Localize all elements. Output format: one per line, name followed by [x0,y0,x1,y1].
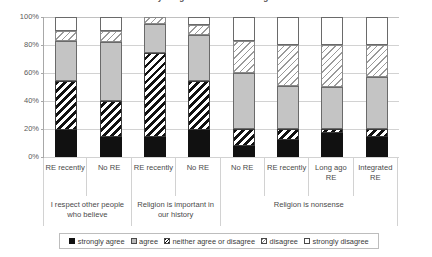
plot-area: 0%20%40%60%80%100% [43,17,399,158]
legend-item[interactable]: agree [131,237,158,246]
legend-item[interactable]: strongly disagree [304,237,369,246]
stacked-bar[interactable] [144,17,166,157]
bar-segment-dg[interactable] [144,17,166,24]
bar-segment-sa[interactable] [100,137,122,157]
bar-segment-dg[interactable] [55,31,77,41]
bar-segment-ag[interactable] [366,77,388,129]
category-axis: RE recentlyNo RERE recentlyNo RENo RERE … [43,158,398,196]
bar-segment-nt[interactable] [366,129,388,137]
bar-slot [222,17,266,157]
bar-segment-sa[interactable] [366,137,388,157]
y-axis-tick-label: 20% [24,125,39,133]
bar-segment-sa[interactable] [321,133,343,157]
legend-label: disagree [270,237,298,246]
chart-root: How far do you agree with the following … [0,0,432,257]
bar-segment-ag[interactable] [100,42,122,101]
group-label-cell: I respect other people who believe [43,196,132,226]
legend-swatch-icon [261,238,267,244]
stacked-bar[interactable] [188,17,210,157]
bar-slot [133,17,177,157]
bar-segment-nt[interactable] [277,129,299,140]
group-label: Religion is important in our history [132,200,220,220]
bar-segment-ag[interactable] [55,41,77,82]
category-label-cell: No RE [87,158,131,196]
bar-segment-nt[interactable] [100,101,122,137]
bar-slot [177,17,221,157]
category-label: No RE [176,163,219,173]
bar-segment-nt[interactable] [188,81,210,130]
chart-title: How far do you agree with the following … [0,0,432,2]
bar-segment-sa[interactable] [144,137,166,157]
category-label: No RE [87,163,130,173]
bar-segment-sd[interactable] [55,17,77,31]
bar-segment-sd[interactable] [100,17,122,31]
category-label-cell: No RE [176,158,220,196]
bar-series-container [44,17,399,157]
bar-segment-sd[interactable] [233,17,255,41]
category-label: RE recently [265,163,308,173]
category-label-cell: Integrated RE [354,158,398,196]
bar-segment-ag[interactable] [321,87,343,129]
bar-segment-sa[interactable] [55,130,77,157]
legend-item[interactable]: disagree [261,237,298,246]
bar-segment-sa[interactable] [233,146,255,157]
legend-swatch-icon [131,238,137,244]
legend-label: neither agree or disagree [173,237,256,246]
bar-slot [355,17,399,157]
stacked-bar[interactable] [100,17,122,157]
group-label: I respect other people who believe [44,200,131,220]
group-label-cell: Religion is nonsense [221,196,399,226]
bar-segment-dg[interactable] [366,45,388,77]
y-axis-tick-label: 80% [24,41,39,49]
bar-segment-sd[interactable] [277,17,299,45]
category-label-cell: RE recently [132,158,176,196]
bar-slot [88,17,132,157]
bar-segment-nt[interactable] [55,81,77,130]
bar-slot [310,17,354,157]
category-label: No RE [221,163,264,173]
stacked-bar[interactable] [277,17,299,157]
stacked-bar[interactable] [55,17,77,157]
stacked-bar[interactable] [366,17,388,157]
bar-segment-nt[interactable] [321,129,343,133]
stacked-bar[interactable] [233,17,255,157]
y-axis-tick-label: 100% [20,13,39,21]
stacked-bar[interactable] [321,17,343,157]
legend-swatch-icon [164,238,170,244]
bar-segment-sa[interactable] [277,140,299,157]
category-label: RE recently [132,163,175,173]
bar-segment-dg[interactable] [321,45,343,87]
category-label-cell: RE recently [265,158,309,196]
bar-segment-ag[interactable] [233,73,255,129]
category-label-cell: Long ago RE [309,158,353,196]
bar-segment-ag[interactable] [144,24,166,53]
group-label: Religion is nonsense [221,200,398,210]
bar-segment-dg[interactable] [233,41,255,73]
bar-segment-ag[interactable] [277,86,299,129]
bar-segment-nt[interactable] [233,129,255,146]
category-label-cell: RE recently [43,158,87,196]
bar-segment-dg[interactable] [100,31,122,42]
bar-segment-sd[interactable] [366,17,388,45]
group-axis: I respect other people who believeReligi… [43,196,398,226]
category-label: Long ago RE [309,163,352,183]
bar-segment-sd[interactable] [321,17,343,45]
bar-segment-nt[interactable] [144,53,166,137]
legend-label: agree [139,237,158,246]
bar-segment-dg[interactable] [188,25,210,35]
bar-segment-sd[interactable] [188,17,210,25]
chart-legend: strongly agreeagreeneither agree or disa… [59,233,379,249]
bar-slot [44,17,88,157]
y-axis-tick-label: 60% [24,69,39,77]
legend-item[interactable]: strongly agree [69,237,124,246]
bar-segment-sa[interactable] [188,130,210,157]
bar-segment-ag[interactable] [188,35,210,81]
legend-swatch-icon [69,238,75,244]
bar-segment-dg[interactable] [277,45,299,86]
category-label: Integrated RE [354,163,397,183]
legend-item[interactable]: neither agree or disagree [164,237,255,246]
legend-swatch-icon [304,238,310,244]
legend-label: strongly agree [78,237,125,246]
y-axis-tick-label: 40% [24,97,39,105]
category-label: RE recently [44,163,86,173]
